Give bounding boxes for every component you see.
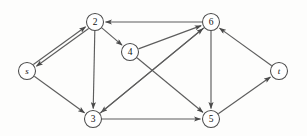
node-label-s: s — [25, 66, 29, 76]
graph-node-4[interactable]: 4 — [122, 44, 139, 61]
node-label-2: 2 — [93, 17, 98, 27]
graph-canvas: s23456t — [0, 0, 307, 136]
graph-node-2[interactable]: 2 — [87, 14, 104, 31]
node-label-5: 5 — [209, 114, 214, 124]
edge-2-s — [36, 29, 88, 67]
graph-node-3[interactable]: 3 — [85, 111, 102, 128]
edge-t-6 — [220, 28, 272, 66]
node-label-4: 4 — [128, 47, 133, 57]
edges-layer — [33, 22, 271, 119]
edge-3-6 — [100, 29, 203, 114]
edge-s-2 — [33, 27, 85, 65]
graph-node-5[interactable]: 5 — [203, 111, 220, 128]
edge-4-5 — [137, 58, 203, 113]
edge-2-3 — [93, 31, 95, 109]
edge-s-3 — [34, 76, 84, 113]
graph-node-t[interactable]: t — [271, 63, 288, 80]
node-label-6: 6 — [209, 17, 214, 27]
graph-node-6[interactable]: 6 — [203, 14, 220, 31]
graph-node-s[interactable]: s — [19, 63, 36, 80]
edge-5-t — [218, 77, 270, 114]
edge-2-4 — [102, 28, 122, 45]
directed-graph-figure: s23456t — [0, 0, 307, 136]
node-label-3: 3 — [91, 114, 96, 124]
